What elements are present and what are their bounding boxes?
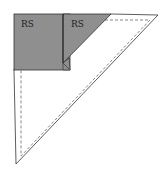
right-triangle-label: RS xyxy=(71,19,84,29)
left-square-label: RS xyxy=(21,19,34,29)
fold-diagram: RS RS xyxy=(0,0,166,173)
